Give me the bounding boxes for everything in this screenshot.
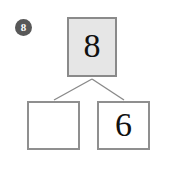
whole-number-value: 8: [84, 29, 101, 63]
part-box-right[interactable]: 6: [97, 101, 150, 150]
part-box-left[interactable]: [27, 101, 80, 150]
part-right-value: 6: [115, 108, 132, 142]
connector-line-left: [54, 79, 92, 100]
connector-line-right: [92, 79, 124, 100]
number-bond-worksheet-problem: 8 8 6: [0, 0, 172, 169]
whole-number-box[interactable]: 8: [67, 17, 117, 77]
